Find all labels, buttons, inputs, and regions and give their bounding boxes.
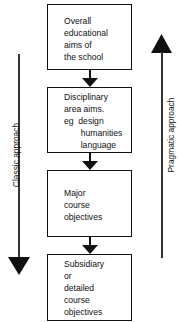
pragmatic-arrow-up-icon: [151, 34, 172, 53]
classic-arrow-down-icon: [8, 257, 30, 275]
pragmatic-approach-line: [161, 52, 163, 258]
pragmatic-approach-label: Pragmatic approach: [166, 90, 176, 180]
classic-approach-label: Classic approach: [11, 115, 21, 195]
arrowheads: [0, 0, 180, 322]
